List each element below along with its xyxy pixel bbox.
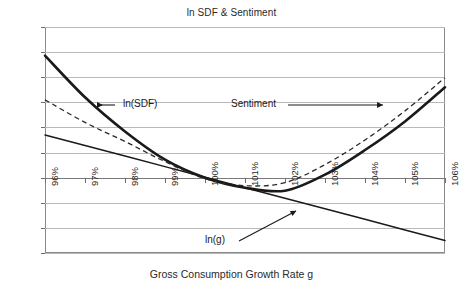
gridline — [45, 253, 445, 254]
ln-g-leader-line — [239, 211, 296, 241]
annotation-ln-sdf: ln(SDF) — [123, 98, 157, 109]
annotation-leaders — [45, 27, 445, 253]
y-tick-mark — [41, 253, 45, 254]
annotation-ln-g: ln(g) — [205, 234, 225, 245]
chart-container: ln SDF & Sentiment 96%97%98%99%100%101%1… — [0, 0, 463, 286]
annotation-sentiment: Sentiment — [231, 98, 276, 109]
x-tick-mark — [445, 178, 446, 183]
plot-area: 96%97%98%99%100%101%102%103%104%105%106% — [45, 27, 445, 253]
x-tick-label: 106% — [449, 161, 460, 185]
x-axis-title: Gross Consumption Growth Rate g — [0, 268, 463, 280]
chart-title: ln SDF & Sentiment — [0, 7, 463, 18]
